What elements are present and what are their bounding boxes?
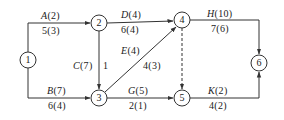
node-4: 4: [174, 12, 190, 28]
node-2: 2: [91, 15, 107, 31]
label-H-bottom: 7(6): [211, 24, 229, 34]
network-diagram: 1 2 3 4 5 6 A(2) 5(3) B(7) 6(4) C(7) 1 D…: [0, 0, 284, 120]
label-E-bottom: 4(3): [143, 61, 161, 71]
label-C-bottom: 1: [103, 61, 108, 71]
label-H-top: H(10): [207, 9, 232, 19]
label-E-top: E(4): [121, 46, 140, 56]
label-A-bottom: 5(3): [42, 26, 60, 36]
node-1: 1: [20, 52, 36, 68]
node-5: 5: [174, 90, 190, 106]
label-C-top: C(7): [73, 61, 93, 71]
label-K-top: K(2): [208, 86, 228, 96]
label-B-top: B(7): [47, 86, 66, 96]
edge-E: [105, 27, 176, 92]
label-D-top: D(4): [121, 10, 141, 20]
edge-D: [107, 21, 173, 23]
label-A-top: A(2): [41, 11, 60, 21]
label-G-top: G(5): [128, 86, 148, 96]
label-K-bottom: 4(2): [209, 101, 227, 111]
label-D-bottom: 6(4): [121, 25, 139, 35]
label-G-bottom: 2(1): [129, 101, 147, 111]
node-3: 3: [91, 90, 107, 106]
label-B-bottom: 6(4): [48, 101, 66, 111]
node-6: 6: [251, 55, 267, 71]
